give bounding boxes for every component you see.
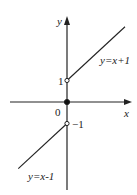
- origin-label: 0: [55, 106, 61, 118]
- series-line-lower: [18, 124, 67, 169]
- open-point-upper-marker: [65, 78, 69, 82]
- y-axis-arrow-icon: [64, 16, 70, 25]
- open-point-upper-label: 1: [58, 75, 64, 87]
- open-point-lower-label: −1: [72, 118, 84, 130]
- x-axis-arrow-icon: [124, 99, 132, 105]
- open-point-lower-marker: [65, 121, 69, 125]
- series-label-upper: y=x+1: [99, 54, 130, 66]
- piecewise-chart: x y 0 y=x+1y=x-11−1: [0, 0, 137, 195]
- x-axis-label: x: [123, 107, 129, 119]
- series-label-lower: y=x-1: [27, 170, 54, 182]
- origin-marker: [64, 99, 69, 104]
- y-axis-label: y: [56, 15, 62, 27]
